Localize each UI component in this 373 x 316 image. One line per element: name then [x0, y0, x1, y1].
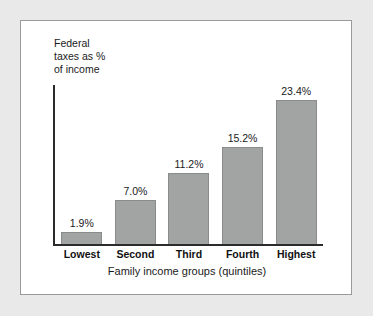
bar-value-label: 23.4%	[281, 85, 311, 97]
y-axis-label: Federal taxes as % of income	[54, 37, 105, 76]
plot-area: 1.9% 7.0% 11.2% 15.2% 23.4%	[53, 85, 323, 244]
bar-value-label: 7.0%	[123, 185, 147, 197]
bar-group: 15.2%	[216, 85, 269, 244]
x-axis-tick-labels: Lowest Second Third Fourth Highest	[55, 248, 323, 260]
bar-highest[interactable]	[276, 100, 317, 244]
x-axis-title: Family income groups (quintiles)	[21, 265, 353, 277]
category-label-fourth: Fourth	[216, 248, 269, 260]
bar-value-label: 15.2%	[228, 132, 258, 144]
category-label-second: Second	[109, 248, 162, 260]
bar-value-label: 1.9%	[70, 217, 94, 229]
bar-third[interactable]	[168, 173, 209, 244]
chart-panel: Federal taxes as % of income 1.9% 7.0% 1…	[20, 20, 352, 295]
bar-value-label: 11.2%	[174, 158, 203, 170]
bar-group: 11.2%	[162, 85, 215, 244]
category-label-third: Third	[162, 248, 215, 260]
bar-lowest[interactable]	[61, 232, 102, 244]
bar-series: 1.9% 7.0% 11.2% 15.2% 23.4%	[55, 85, 323, 244]
category-label-lowest: Lowest	[55, 248, 108, 260]
bar-group: 7.0%	[109, 85, 162, 244]
bar-group: 23.4%	[270, 85, 323, 244]
x-axis-line	[53, 244, 323, 246]
bar-fourth[interactable]	[222, 147, 263, 244]
category-label-highest: Highest	[270, 248, 323, 260]
bar-group: 1.9%	[55, 85, 108, 244]
bar-second[interactable]	[115, 200, 156, 245]
